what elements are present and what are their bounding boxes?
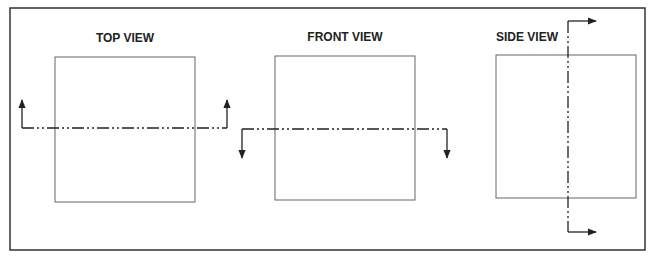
side-view: SIDE VIEW: [496, 21, 636, 232]
top-view-label: TOP VIEW: [96, 31, 155, 45]
front-view-label: FRONT VIEW: [307, 30, 383, 44]
section-views-diagram: TOP VIEW FRONT VIEW SIDE VIEW: [0, 0, 655, 257]
front-view-box: [275, 56, 415, 200]
front-view: FRONT VIEW: [242, 30, 447, 200]
side-view-box: [496, 55, 636, 198]
top-view-box: [55, 57, 195, 202]
side-view-label: SIDE VIEW: [496, 30, 559, 44]
top-view: TOP VIEW: [22, 31, 227, 202]
